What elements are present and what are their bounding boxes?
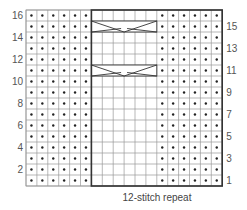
purl-dot-icon [30, 135, 32, 137]
purl-dot-icon [183, 168, 185, 170]
purl-dot-icon [41, 91, 43, 93]
purl-dot-icon [172, 146, 174, 148]
purl-dot-icon [205, 25, 207, 27]
purl-dot-icon [85, 69, 87, 71]
purl-dot-icon [85, 36, 87, 38]
purl-dot-icon [183, 102, 185, 104]
purl-dot-icon [161, 80, 163, 82]
purl-dot-icon [30, 113, 32, 115]
purl-dot-icon [85, 80, 87, 82]
purl-dot-icon [52, 36, 54, 38]
purl-dot-icon [216, 69, 218, 71]
row-number-label: 2 [17, 165, 23, 175]
repeat-caption: 12-stitch repeat [92, 192, 222, 203]
purl-dot-icon [194, 80, 196, 82]
purl-dot-icon [161, 102, 163, 104]
row-number-label: 5 [226, 132, 232, 142]
purl-dot-icon [183, 91, 185, 93]
purl-dot-icon [194, 47, 196, 49]
purl-dot-icon [205, 69, 207, 71]
purl-dot-icon [52, 124, 54, 126]
purl-dot-icon [74, 36, 76, 38]
purl-dot-icon [74, 157, 76, 159]
purl-dot-icon [183, 69, 185, 71]
purl-dot-icon [74, 168, 76, 170]
purl-dot-icon [85, 124, 87, 126]
purl-dot-icon [161, 25, 163, 27]
purl-dot-icon [161, 36, 163, 38]
purl-dot-icon [63, 47, 65, 49]
purl-dot-icon [30, 179, 32, 181]
purl-dot-icon [194, 124, 196, 126]
purl-dot-icon [172, 80, 174, 82]
row-number-label: 10 [12, 77, 23, 87]
purl-dot-icon [63, 58, 65, 60]
purl-dot-icon [63, 36, 65, 38]
purl-dot-icon [172, 47, 174, 49]
purl-dot-icon [52, 102, 54, 104]
purl-dot-icon [183, 135, 185, 137]
purl-dot-icon [63, 124, 65, 126]
purl-dot-icon [74, 146, 76, 148]
row-number-label: 14 [12, 33, 23, 43]
purl-dot-icon [205, 91, 207, 93]
row-number-label: 4 [17, 143, 23, 153]
purl-dot-icon [41, 146, 43, 148]
purl-dot-icon [205, 124, 207, 126]
purl-dot-icon [172, 58, 174, 60]
purl-dot-icon [183, 80, 185, 82]
purl-dot-icon [85, 102, 87, 104]
purl-dot-icon [30, 157, 32, 159]
purl-dot-icon [63, 113, 65, 115]
row-number-label: 15 [226, 22, 237, 32]
purl-dot-icon [63, 91, 65, 93]
purl-dot-icon [194, 179, 196, 181]
purl-dot-icon [41, 135, 43, 137]
purl-dot-icon [30, 91, 32, 93]
purl-dot-icon [85, 135, 87, 137]
purl-dot-icon [52, 69, 54, 71]
purl-dot-icon [30, 36, 32, 38]
purl-dot-icon [194, 58, 196, 60]
purl-dot-icon [194, 168, 196, 170]
purl-dot-icon [194, 113, 196, 115]
purl-dot-icon [172, 25, 174, 27]
purl-dot-icon [205, 47, 207, 49]
knitting-chart [0, 0, 247, 210]
purl-dot-icon [183, 146, 185, 148]
purl-dot-icon [216, 58, 218, 60]
purl-dot-icon [74, 124, 76, 126]
purl-dot-icon [63, 80, 65, 82]
purl-dot-icon [172, 36, 174, 38]
purl-dot-icon [216, 47, 218, 49]
purl-dot-icon [172, 124, 174, 126]
purl-dot-icon [30, 168, 32, 170]
row-number-label: 12 [12, 55, 23, 65]
row-number-label: 3 [226, 154, 232, 164]
purl-dot-icon [30, 25, 32, 27]
purl-dot-icon [194, 102, 196, 104]
purl-dot-icon [63, 179, 65, 181]
purl-dot-icon [205, 14, 207, 16]
purl-dot-icon [216, 80, 218, 82]
purl-dot-icon [172, 113, 174, 115]
purl-dot-icon [85, 168, 87, 170]
purl-dot-icon [85, 47, 87, 49]
purl-dot-icon [216, 91, 218, 93]
purl-dot-icon [74, 69, 76, 71]
purl-dot-icon [161, 135, 163, 137]
purl-dot-icon [74, 25, 76, 27]
purl-dot-icon [172, 179, 174, 181]
purl-dot-icon [52, 168, 54, 170]
row-number-label: 9 [226, 88, 232, 98]
purl-dot-icon [63, 157, 65, 159]
purl-dot-icon [41, 69, 43, 71]
purl-dot-icon [74, 102, 76, 104]
purl-dot-icon [216, 168, 218, 170]
purl-dot-icon [216, 179, 218, 181]
row-number-label: 11 [226, 66, 236, 76]
purl-dot-icon [194, 25, 196, 27]
purl-dot-icon [85, 91, 87, 93]
purl-dot-icon [85, 179, 87, 181]
purl-dot-icon [194, 157, 196, 159]
